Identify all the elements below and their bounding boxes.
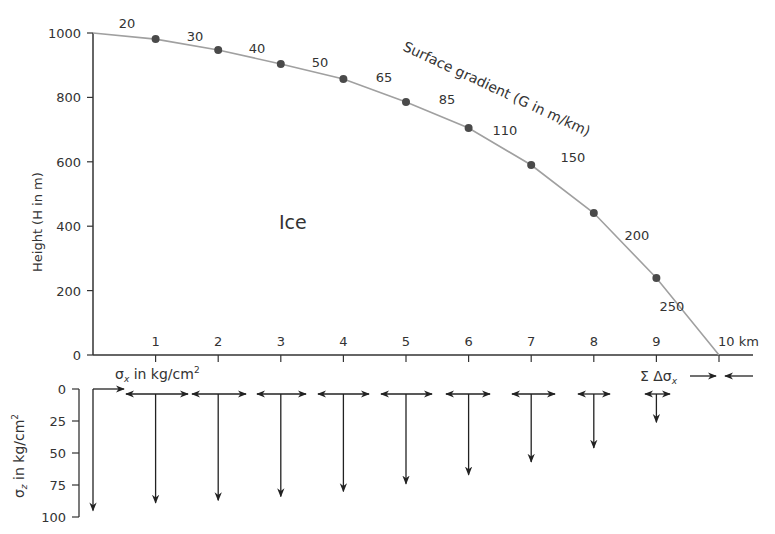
y-tick-label: 600: [56, 155, 81, 170]
height-profile-chart: 0200400600800100012345678910 km203040506…: [48, 16, 759, 517]
y-axis-label-height: Height (H in m): [30, 172, 45, 272]
data-point-marker: [339, 75, 347, 83]
x-tick-label: 8: [590, 334, 598, 349]
gradient-value-label: 200: [625, 228, 650, 243]
y-tick-label: 0: [58, 382, 66, 397]
ice-region-label: Ice: [279, 211, 307, 233]
y-tick-label: 800: [56, 90, 81, 105]
data-point-marker: [590, 209, 598, 217]
y-tick-label: 200: [56, 284, 81, 299]
gradient-value-label: 20: [119, 16, 136, 31]
x-tick-label: 5: [402, 334, 410, 349]
x-tick-label: 10 km: [718, 334, 759, 349]
gradient-value-label: 250: [660, 299, 685, 314]
data-point-marker: [277, 60, 285, 68]
gradient-value-label: 50: [312, 55, 329, 70]
y-tick-label: 25: [49, 414, 66, 429]
x-tick-label: 1: [151, 334, 159, 349]
x-tick-label: 7: [527, 334, 535, 349]
gradient-value-label: 65: [376, 70, 393, 85]
data-point-marker: [152, 35, 160, 43]
data-point-marker: [652, 274, 660, 282]
data-point-marker: [402, 98, 410, 106]
gradient-value-label: 110: [493, 123, 518, 138]
y-tick-label: 75: [49, 478, 66, 493]
x-tick-label: 9: [652, 334, 660, 349]
x-tick-label: 4: [339, 334, 347, 349]
x-tick-label: 6: [464, 334, 472, 349]
data-point-marker: [214, 46, 222, 54]
data-point-marker: [465, 124, 473, 132]
x-tick-label: 3: [277, 334, 285, 349]
stress-vector-panel: 0255075100: [41, 376, 753, 525]
x-tick-label: 2: [214, 334, 222, 349]
sigma-z-axis-label: σz in kg/cm2: [10, 414, 29, 498]
gradient-value-label: 150: [561, 150, 586, 165]
ice-sheet-diagram: 0200400600800100012345678910 km203040506…: [0, 0, 775, 534]
y-tick-label: 1000: [48, 26, 81, 41]
sigma-x-axis-label: σx in kg/cm2: [115, 365, 200, 384]
gradient-value-label: 40: [249, 41, 266, 56]
y-tick-label: 100: [41, 510, 66, 525]
y-tick-label: 50: [49, 446, 66, 461]
surface-profile-line: [93, 33, 719, 355]
gradient-value-label: 85: [439, 92, 456, 107]
data-point-marker: [527, 161, 535, 169]
y-tick-label: 0: [73, 348, 81, 363]
sum-delta-sigma-label: Σ Δσx: [640, 368, 678, 386]
gradient-value-label: 30: [187, 29, 204, 44]
y-tick-label: 400: [56, 219, 81, 234]
